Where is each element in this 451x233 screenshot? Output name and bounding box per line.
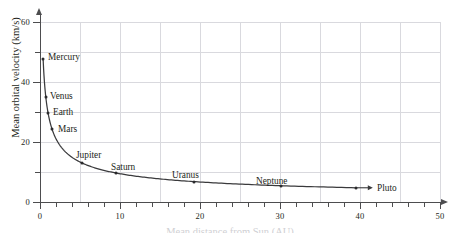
data-point-earth[interactable] xyxy=(47,111,50,114)
data-label-venus: Venus xyxy=(50,91,73,101)
data-point-pluto[interactable] xyxy=(354,186,357,189)
data-label-jupiter: Jupiter xyxy=(76,150,101,160)
pluto-leader-arrow-icon xyxy=(356,185,373,190)
chart-container: 0 20 40 60 0 10 20 30 40 50 Mean orbital… xyxy=(0,0,451,233)
data-label-mercury: Mercury xyxy=(48,52,80,62)
data-point-venus[interactable] xyxy=(44,95,47,98)
data-point-uranus[interactable] xyxy=(192,180,195,183)
series-curve-layer xyxy=(0,0,451,233)
data-point-mars[interactable] xyxy=(51,128,54,131)
orbital-velocity-curve xyxy=(43,59,356,188)
data-label-pluto: Pluto xyxy=(377,183,397,193)
data-label-neptune: Neptune xyxy=(256,176,288,186)
data-label-mars: Mars xyxy=(58,124,77,134)
data-point-jupiter[interactable] xyxy=(80,161,83,164)
data-point-saturn[interactable] xyxy=(115,172,118,175)
data-point-mercury[interactable] xyxy=(42,57,45,60)
data-label-uranus: Uranus xyxy=(172,170,199,180)
data-label-earth: Earth xyxy=(53,107,73,117)
data-label-saturn: Saturn xyxy=(111,162,135,172)
